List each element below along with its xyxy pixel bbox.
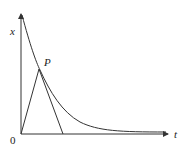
t-axis-label: t: [174, 128, 178, 140]
tangent-line: [39, 69, 63, 134]
x-axis-label: x: [9, 25, 15, 37]
segment-origin-to-p: [21, 69, 39, 134]
decay-curve: [22, 15, 166, 132]
point-p-label: P: [43, 56, 51, 68]
x-t-diagram: x t 0 P: [0, 0, 187, 150]
origin-label: 0: [10, 134, 16, 146]
